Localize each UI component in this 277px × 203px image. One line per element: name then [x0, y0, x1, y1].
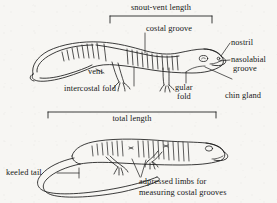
nostril-label: nostril [231, 38, 253, 48]
upper-leader-lines [96, 33, 232, 86]
lower-leader-lines [57, 159, 146, 178]
intercostal-fold-label: intercostal fold [64, 84, 116, 94]
vent-label: vent [88, 67, 103, 77]
adpressed-limbs-label-line2: measuring costal grooves [139, 188, 227, 198]
salamander-measurement-figure: snout-vent length costal groove nostril … [0, 0, 277, 203]
snout-vent-length-label: snout-vent length [104, 3, 218, 13]
adpressed-limbs-label-line1: adpressed limbs for [139, 177, 207, 187]
snout-vent-bracket [110, 16, 212, 23]
keeled-tail-label: keeled tail [6, 168, 42, 178]
upper-salamander-body [30, 42, 226, 92]
nasolabial-groove-label-line2: groove [233, 64, 257, 74]
chin-gland-label: chin gland [225, 91, 261, 101]
hind-limb-lower [106, 156, 128, 175]
total-length-label: total length [78, 114, 186, 124]
gular-fold-label-line2: fold [177, 92, 191, 102]
costal-groove-label: costal groove [146, 24, 192, 34]
